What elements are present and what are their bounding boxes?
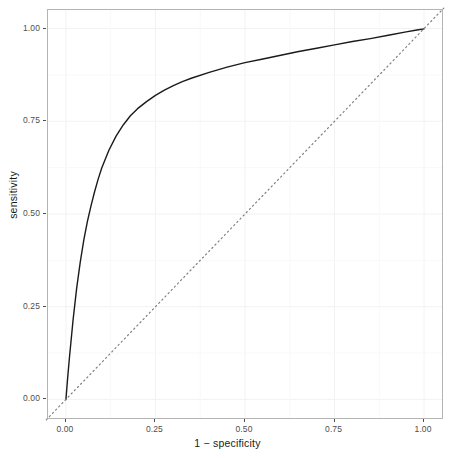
x-tick-label-2: 0.50 xyxy=(236,424,253,434)
y-tick-label-1: 0.25 xyxy=(8,301,40,311)
x-tick-mark-3 xyxy=(334,419,335,422)
y-tick-label-3: 0.75 xyxy=(8,115,40,125)
x-tick-label-4: 1.00 xyxy=(415,424,432,434)
roc-chart: 0.000.250.500.751.00 0.000.250.500.751.0… xyxy=(0,0,455,458)
x-tick-label-3: 0.75 xyxy=(325,424,342,434)
x-tick-mark-1 xyxy=(154,419,155,422)
plot-area-svg xyxy=(47,9,445,421)
plot-panel xyxy=(47,9,443,419)
x-tick-mark-4 xyxy=(423,419,424,422)
x-tick-label-1: 0.25 xyxy=(146,424,163,434)
x-tick-mark-0 xyxy=(65,419,66,422)
y-tick-label-4: 1.00 xyxy=(8,23,40,33)
x-tick-label-0: 0.00 xyxy=(56,424,73,434)
y-tick-mark-2 xyxy=(43,213,46,214)
y-tick-mark-4 xyxy=(43,28,46,29)
gridlines-major xyxy=(48,10,442,418)
x-axis-title: 1 − specificity xyxy=(0,437,455,449)
x-tick-mark-2 xyxy=(244,419,245,422)
y-tick-label-0: 0.00 xyxy=(8,393,40,403)
y-tick-mark-3 xyxy=(43,120,46,121)
y-tick-mark-0 xyxy=(43,398,46,399)
y-axis-title: sensitivity xyxy=(7,165,19,225)
y-tick-mark-1 xyxy=(43,306,46,307)
